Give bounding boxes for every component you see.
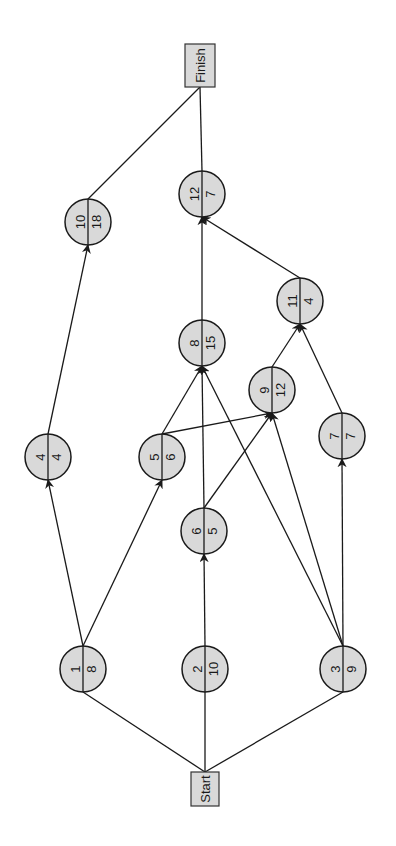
start-label: Start <box>198 775 213 803</box>
activity-duration: 15 <box>203 336 218 350</box>
edge-12-to-finish <box>200 87 202 171</box>
edge-6-to-8 <box>202 366 204 508</box>
activity-number: 4 <box>33 453 48 460</box>
edge-6-to-9 <box>204 413 272 508</box>
edge-1-to-4 <box>48 480 83 646</box>
activity-node-10: 1018 <box>65 199 111 245</box>
activity-node-8: 815 <box>179 320 225 366</box>
activity-duration: 9 <box>344 665 359 672</box>
network-diagram: 1821039445665778159121018114127 StartFin… <box>0 0 396 846</box>
edge-start-to-3 <box>205 692 343 772</box>
start-node: Start <box>191 772 219 806</box>
activity-number: 9 <box>257 386 272 393</box>
activity-duration: 5 <box>205 527 220 534</box>
finish-label: Finish <box>193 48 208 83</box>
edge-5-to-9 <box>162 413 272 434</box>
activity-number: 6 <box>189 527 204 534</box>
activity-node-11: 114 <box>277 278 323 324</box>
edge-9-to-11 <box>272 324 300 367</box>
activity-node-3: 39 <box>320 646 366 692</box>
activity-duration: 18 <box>89 215 104 229</box>
activity-number: 5 <box>147 453 162 460</box>
edge-1-to-5 <box>83 480 162 646</box>
activity-duration: 12 <box>273 383 288 397</box>
activity-node-7: 77 <box>319 413 365 459</box>
edge-11-to-12 <box>202 217 300 278</box>
activity-number: 7 <box>327 432 342 439</box>
activity-number: 12 <box>187 187 202 201</box>
activity-number: 8 <box>187 339 202 346</box>
activity-number: 3 <box>328 665 343 672</box>
activity-duration: 6 <box>163 453 178 460</box>
activity-node-4: 44 <box>25 434 71 480</box>
activity-number: 11 <box>285 294 300 308</box>
edge-7-to-11 <box>300 324 342 413</box>
edge-2-to-6 <box>204 554 205 646</box>
activity-number: 10 <box>73 215 88 229</box>
finish-node: Finish <box>185 44 215 87</box>
activity-node-9: 912 <box>249 367 295 413</box>
activity-node-1: 18 <box>60 646 106 692</box>
activity-node-6: 65 <box>181 508 227 554</box>
activity-node-2: 210 <box>182 646 228 692</box>
edge-start-to-1 <box>83 692 205 772</box>
activity-duration: 4 <box>49 453 64 460</box>
activity-node-5: 56 <box>139 434 185 480</box>
activity-duration: 8 <box>84 665 99 672</box>
activity-duration: 4 <box>301 297 316 304</box>
activity-duration: 10 <box>206 662 221 676</box>
edge-5-to-8 <box>162 366 202 434</box>
activity-number: 1 <box>68 665 83 672</box>
activity-number: 2 <box>190 665 205 672</box>
edge-3-to-7 <box>342 459 343 646</box>
activity-duration: 7 <box>343 432 358 439</box>
edge-4-to-10 <box>48 245 88 434</box>
activity-node-12: 127 <box>179 171 225 217</box>
activity-duration: 7 <box>203 190 218 197</box>
